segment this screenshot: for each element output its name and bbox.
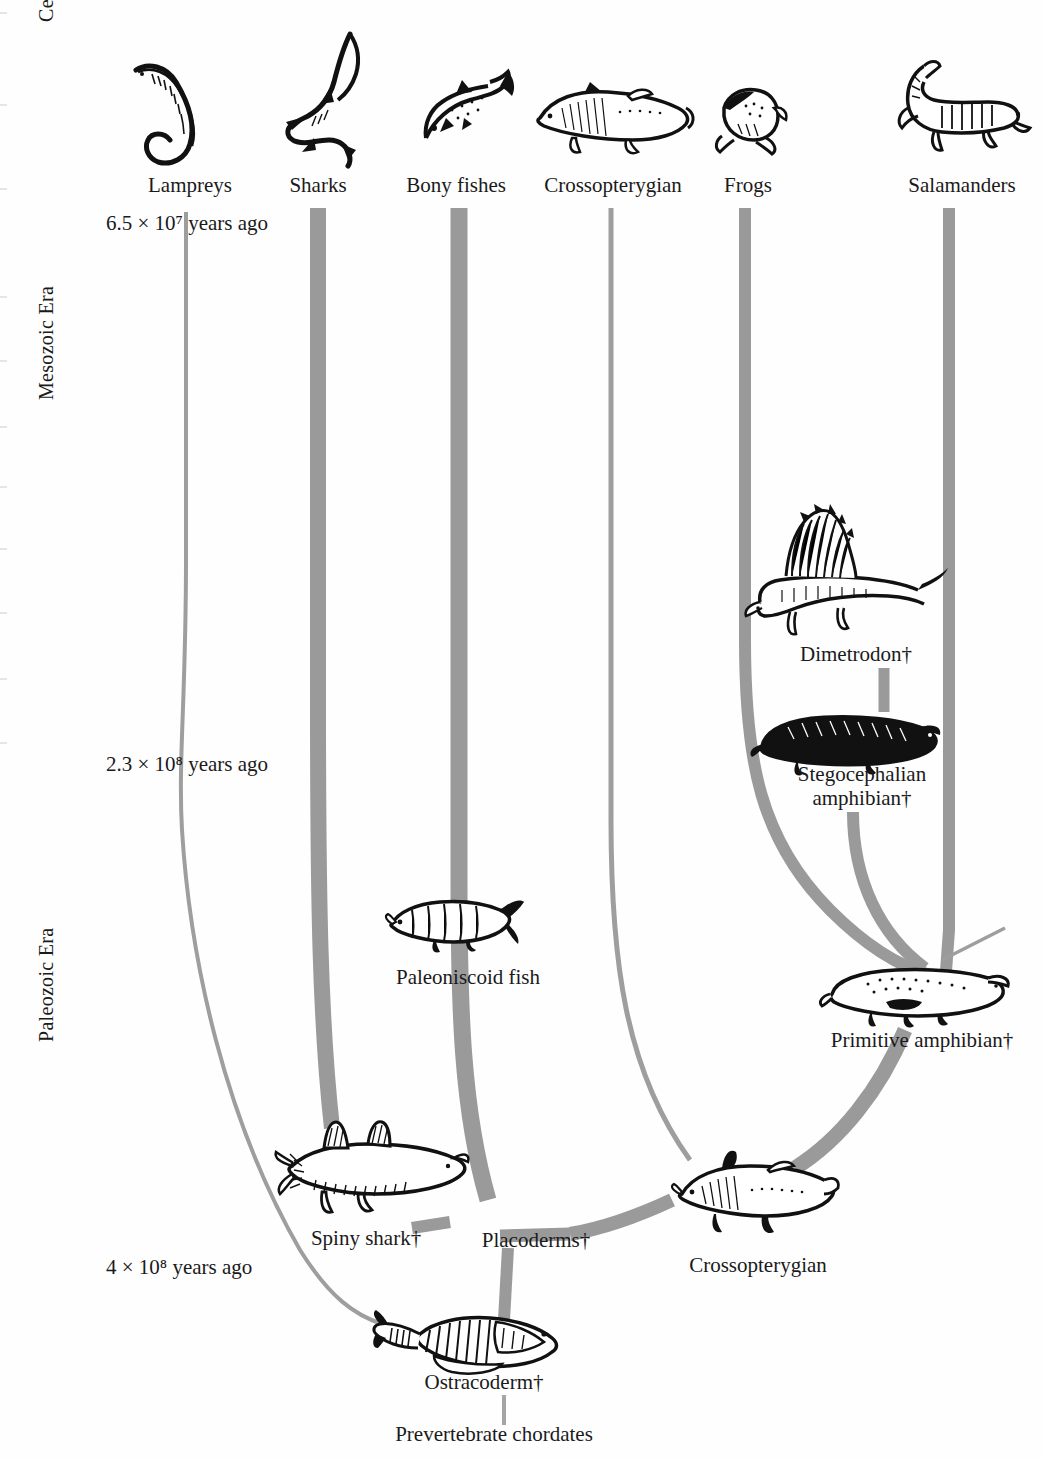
fossil-label-stegocephalian: Stegocephalian amphibian† <box>798 762 926 810</box>
crossopterygian-fossil-icon <box>668 1148 843 1238</box>
fossil-label-placoderms: Placoderms† <box>482 1228 590 1253</box>
scan-mark <box>0 612 7 614</box>
era-label-paleozoic: Paleozoic Era <box>35 928 58 1042</box>
branch-sharks <box>318 208 332 1128</box>
shark-icon <box>272 26 382 176</box>
scan-mark <box>0 360 7 362</box>
branch-crossopterygian-top <box>611 208 690 1160</box>
taxon-label-crossopterygian: Crossopterygian <box>544 173 682 198</box>
scan-mark <box>0 486 7 488</box>
scan-mark <box>0 742 7 744</box>
spiny-shark-icon <box>272 1118 472 1218</box>
bony-fish-icon <box>412 62 522 162</box>
primitive-amphibian-icon <box>818 958 1018 1028</box>
taxon-label-bony-fishes: Bony fishes <box>406 173 506 198</box>
stegocephalian-line1: Stegocephalian <box>798 762 926 786</box>
scan-mark <box>0 426 7 428</box>
scan-mark <box>0 296 7 298</box>
frog-icon <box>708 78 798 163</box>
salamander-icon <box>890 48 1035 173</box>
stegocephalian-line2: amphibian† <box>798 786 926 810</box>
taxon-label-frogs: Frogs <box>724 173 772 198</box>
evolutionary-tree-figure: Cenozoic Era Mesozoic Era Paleozoic Era … <box>0 0 1045 1458</box>
taxon-label-lampreys: Lampreys <box>148 173 232 198</box>
fossil-label-primitive-amphibian: Primitive amphibian† <box>831 1028 1014 1053</box>
era-label-cenozoic: Cenozoic Era <box>35 0 58 22</box>
fossil-label-ostracoderm: Ostracoderm† <box>425 1370 544 1395</box>
scan-mark <box>0 188 7 190</box>
time-marker-400my: 4 × 10⁸ years ago <box>106 1255 252 1280</box>
fossil-label-spiny-shark: Spiny shark† <box>311 1226 421 1251</box>
taxon-label-sharks: Sharks <box>289 173 346 198</box>
branch-bony-fishes <box>459 208 488 1200</box>
dimetrodon-icon <box>742 498 952 638</box>
scan-mark <box>0 548 7 550</box>
fossil-label-prevertebrate: Prevertebrate chordates <box>395 1422 593 1447</box>
scan-mark <box>0 104 7 106</box>
era-label-mesozoic: Mesozoic Era <box>35 286 58 400</box>
time-marker-65my: 6.5 × 10⁷ years ago <box>106 211 268 236</box>
fossil-label-crossopterygian-fossil: Crossopterygian <box>689 1253 827 1278</box>
scan-mark <box>0 678 7 680</box>
paleoniscoid-icon <box>382 888 532 958</box>
lamprey-icon <box>118 52 238 172</box>
fossil-label-paleoniscoid: Paleoniscoid fish <box>396 965 540 990</box>
taxon-label-salamanders: Salamanders <box>908 173 1015 198</box>
fossil-label-dimetrodon: Dimetrodon† <box>800 642 912 667</box>
scan-mark <box>0 12 7 14</box>
time-marker-230my: 2.3 × 10⁸ years ago <box>106 752 268 777</box>
coelacanth-icon <box>528 78 698 158</box>
